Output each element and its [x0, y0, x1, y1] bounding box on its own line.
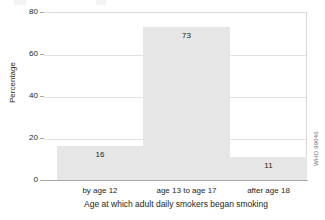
y-tick-label-0: 0	[34, 176, 38, 184]
x-category-label-age-13-to-17: age 13 to age 17	[143, 186, 230, 195]
scan-artifact	[96, 0, 106, 5]
y-tick-label-80: 80	[29, 8, 38, 16]
bar-value-label: 16	[57, 151, 143, 159]
y-tick-label-40: 40	[29, 92, 38, 100]
x-axis-line	[44, 180, 308, 181]
scan-artifact	[14, 0, 26, 5]
x-category-label-after-age-18: after age 18	[230, 186, 307, 195]
y-axis-title: Percentage	[8, 48, 17, 118]
bar-after-age-18[interactable]: 11	[230, 157, 307, 180]
plot-area: 16 73 11	[44, 12, 307, 180]
bar-value-label: 11	[230, 162, 307, 170]
bar-value-label: 73	[143, 32, 230, 40]
bar-by-age-12[interactable]: 16	[57, 146, 143, 180]
x-axis-title: Age at which adult daily smokers began s…	[44, 199, 308, 209]
y-tick-label-20: 20	[29, 134, 38, 142]
x-category-label-by-age-12: by age 12	[57, 186, 143, 195]
source-credit-label: WHO 99046	[313, 127, 320, 171]
bar-chart-figure: Percentage 80 60 40 20 0 16 73 11 by age…	[0, 0, 325, 220]
y-tick-label-60: 60	[29, 50, 38, 58]
bar-age-13-to-17[interactable]: 73	[143, 27, 230, 180]
